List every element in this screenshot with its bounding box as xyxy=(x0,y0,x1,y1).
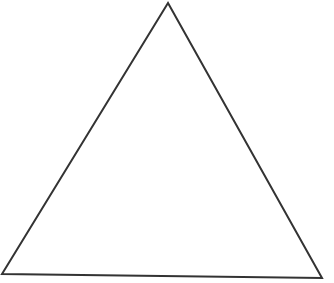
diagram-canvas xyxy=(0,0,334,283)
triangle-shape xyxy=(2,3,322,278)
